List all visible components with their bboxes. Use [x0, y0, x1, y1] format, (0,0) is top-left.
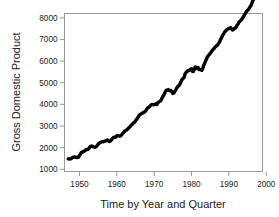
y-tick-label: 5000 — [39, 79, 58, 88]
y-tick-label: 7000 — [39, 35, 58, 44]
x-axis-title: Time by Year and Quarter — [100, 198, 226, 210]
x-tick-label: 1990 — [220, 180, 239, 189]
x-tick-label: 1980 — [182, 180, 201, 189]
x-tick-label: 1970 — [145, 180, 164, 189]
y-tick-label: 3000 — [39, 122, 58, 131]
x-tick-label: 2000 — [257, 180, 276, 189]
y-axis-title: Gross Domestic Product — [10, 32, 22, 151]
y-tick-label: 6000 — [39, 57, 58, 66]
x-tick-label: 1960 — [108, 180, 127, 189]
x-tick-label: 1950 — [70, 180, 89, 189]
y-tick-label: 2000 — [39, 144, 58, 153]
gdp-chart-figure: 10002000300040005000600070008000 1950196… — [0, 0, 279, 217]
chart-canvas: 10002000300040005000600070008000 1950196… — [0, 0, 279, 217]
y-tick-label: 4000 — [39, 100, 58, 109]
y-tick-label: 1000 — [39, 165, 58, 174]
y-tick-label: 8000 — [39, 14, 58, 23]
